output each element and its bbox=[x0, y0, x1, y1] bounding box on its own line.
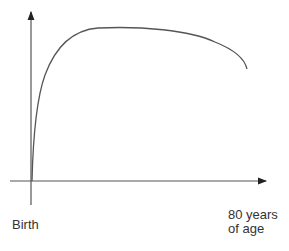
x-axis-end-label-line2: of age bbox=[228, 222, 278, 236]
x-axis-end-label: 80 years of age bbox=[228, 208, 278, 236]
x-axis-end-label-line1: 80 years bbox=[228, 208, 278, 222]
life-curve bbox=[32, 28, 247, 181]
x-axis-start-label: Birth bbox=[12, 218, 39, 232]
